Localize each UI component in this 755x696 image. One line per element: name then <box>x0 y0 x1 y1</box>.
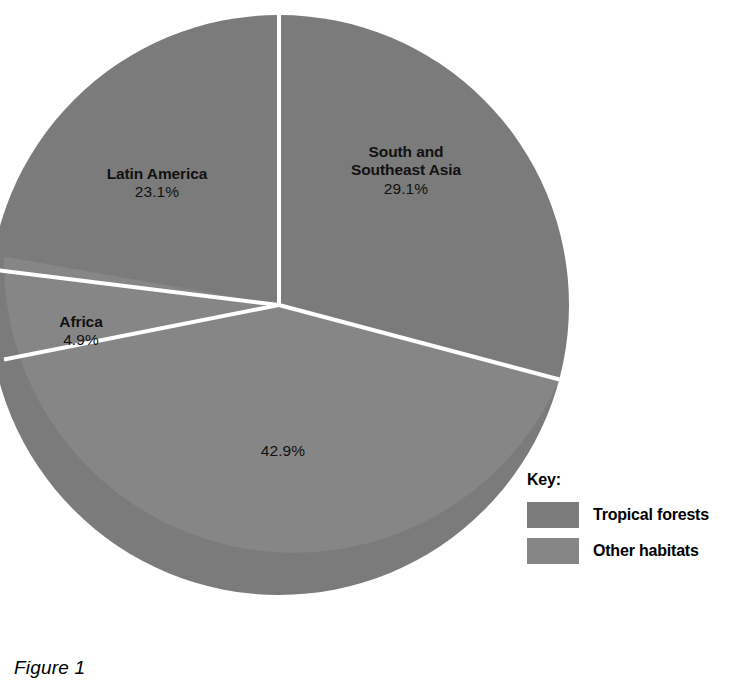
slice-percent-latin-america: 23.1% <box>62 183 252 201</box>
slice-percent-africa: 4.9% <box>16 331 146 349</box>
figure-container: South and Southeast Asia 29.1% Latin Ame… <box>0 0 755 696</box>
legend-item-other-habitats: Other habitats <box>527 533 755 569</box>
slice-label-south-southeast-asia: South and Southeast Asia 29.1% <box>316 143 496 198</box>
pie-chart-svg <box>0 0 600 620</box>
legend: Key: Tropical forests Other habitats <box>527 471 755 569</box>
legend-swatch-tropical-forests <box>527 502 579 528</box>
legend-label-tropical-forests: Tropical forests <box>593 506 709 524</box>
legend-label-other-habitats: Other habitats <box>593 542 699 560</box>
slice-label-latin-america: Latin America 23.1% <box>62 165 252 202</box>
legend-item-tropical-forests: Tropical forests <box>527 497 755 533</box>
slice-label-africa: Africa 4.9% <box>16 313 146 350</box>
slice-name-africa: Africa <box>16 313 146 331</box>
legend-title: Key: <box>527 471 755 489</box>
slice-name-line-1: South and <box>316 143 496 161</box>
figure-caption: Figure 1 <box>14 657 85 679</box>
slice-name-line-2: Southeast Asia <box>316 161 496 179</box>
legend-swatch-other-habitats <box>527 538 579 564</box>
slice-percent-south-southeast-asia: 29.1% <box>316 180 496 198</box>
pie-chart <box>0 0 600 620</box>
slice-label-other-habitats: 42.9% <box>228 442 338 460</box>
slice-name-latin-america: Latin America <box>62 165 252 183</box>
slice-percent-other-habitats: 42.9% <box>228 442 338 460</box>
